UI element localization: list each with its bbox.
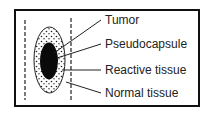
leader-line-tumor <box>54 20 101 53</box>
label-tumor: Tumor <box>105 13 139 27</box>
label-normal-tissue: Normal tissue <box>105 86 178 100</box>
tumor-core <box>40 43 58 80</box>
label-pseudocapsule: Pseudocapsule <box>105 37 187 51</box>
label-reactive-tissue: Reactive tissue <box>105 63 186 77</box>
